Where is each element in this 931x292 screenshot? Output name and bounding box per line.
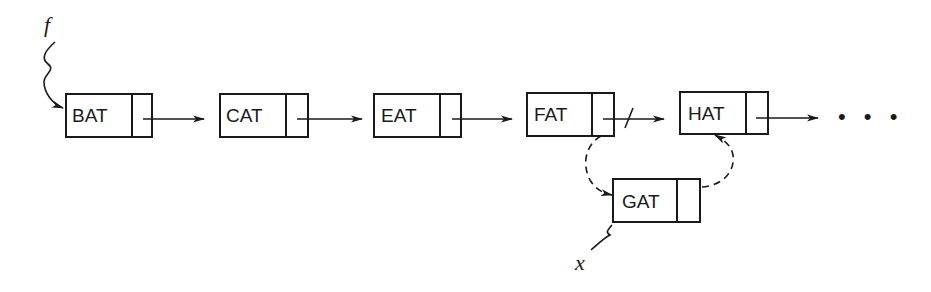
node-cat: CAT — [220, 94, 308, 137]
node-label: HAT — [688, 103, 725, 124]
strike-mark — [625, 108, 633, 128]
node-label: GAT — [622, 191, 660, 212]
node-fat: FAT — [527, 93, 614, 136]
node-label: EAT — [381, 105, 417, 126]
node-hat: HAT — [680, 92, 768, 134]
head-pointer-squiggle — [44, 42, 63, 108]
pointer-label-f: f — [44, 12, 53, 37]
edge-fat-gat-new — [586, 136, 612, 195]
node-gat: GAT — [613, 179, 700, 222]
node-label: CAT — [226, 105, 263, 126]
node-bat: BAT — [66, 94, 152, 137]
linked-list-diagram: f BAT CAT EAT FAT HAT • • • GAT — [0, 0, 931, 292]
node-eat: EAT — [374, 94, 461, 137]
edge-gat-hat-new — [702, 135, 733, 187]
node-label: BAT — [72, 105, 108, 126]
ellipsis: • • • — [838, 104, 903, 129]
pointer-label-x: x — [574, 250, 585, 275]
node-label: FAT — [534, 104, 568, 125]
new-node-pointer-squiggle — [591, 225, 612, 250]
